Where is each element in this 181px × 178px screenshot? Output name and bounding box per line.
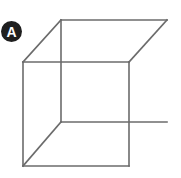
bottom-left-connector bbox=[23, 122, 61, 166]
top-left-connector bbox=[23, 20, 61, 62]
cube-diagram bbox=[0, 0, 181, 178]
top-right-connector bbox=[129, 20, 167, 62]
